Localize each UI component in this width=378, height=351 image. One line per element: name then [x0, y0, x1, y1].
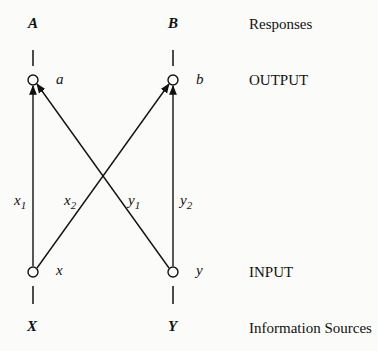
row-label-information-sources: Information Sources: [249, 320, 372, 337]
node-label-b: b: [196, 71, 204, 88]
response-label-a: A: [28, 15, 38, 32]
source-label-y: Y: [168, 318, 177, 335]
node-label-y: y: [196, 262, 203, 279]
node-label-a: a: [56, 71, 64, 88]
response-label-b: B: [168, 15, 178, 32]
edge-label-y2: y2: [180, 192, 192, 211]
edge-label-y1: y1: [128, 192, 140, 211]
node-x: [28, 267, 38, 277]
row-label-responses: Responses: [249, 16, 312, 33]
edge-label-x2: x2: [64, 192, 76, 211]
network-diagram: A B a b x y x1 x2 y1 y2 X Y Responses OU…: [0, 0, 378, 351]
node-b: [168, 75, 178, 85]
diagram-graphics: [0, 0, 378, 351]
node-label-x: x: [56, 262, 63, 279]
edge-label-x1: x1: [14, 192, 26, 211]
node-a: [28, 75, 38, 85]
row-label-input: INPUT: [249, 264, 293, 281]
row-label-output: OUTPUT: [249, 72, 308, 89]
source-label-x: X: [27, 318, 37, 335]
node-y: [168, 267, 178, 277]
